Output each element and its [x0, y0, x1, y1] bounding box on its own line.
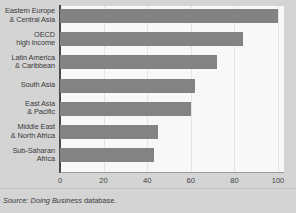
category-label-line: South Asia	[0, 81, 55, 89]
bar	[60, 79, 195, 93]
x-tick-label: 20	[91, 176, 117, 185]
bar	[60, 55, 217, 69]
source-note: Source: Doing Business database.	[3, 196, 116, 205]
bar	[60, 102, 191, 116]
bar-row	[60, 148, 278, 162]
category-label-line: & Central Asia	[0, 16, 55, 24]
category-label-line: & Pacific	[0, 108, 55, 116]
source-suffix: database.	[84, 196, 116, 205]
x-tick-label: 80	[221, 176, 247, 185]
bar	[60, 125, 158, 139]
source-prefix: Source:	[3, 196, 28, 205]
category-label: East Asia& Pacific	[0, 100, 55, 116]
source-publication: Doing Business	[31, 196, 82, 205]
footer-divider	[0, 188, 296, 189]
category-label: South Asia	[0, 81, 55, 89]
category-label-line: & Caribbean	[0, 62, 55, 70]
bar	[60, 9, 278, 23]
bar-row	[60, 102, 278, 116]
category-label-line: high income	[0, 39, 55, 47]
x-tick-label: 60	[178, 176, 204, 185]
bar-row	[60, 32, 278, 46]
bar-row	[60, 79, 278, 93]
x-axis-line	[60, 172, 284, 173]
x-tick-label: 100	[265, 176, 291, 185]
category-label: Sub-SaharanAfrica	[0, 147, 55, 163]
x-tick-label: 0	[47, 176, 73, 185]
bar	[60, 148, 154, 162]
bar-row	[60, 55, 278, 69]
category-label: OECDhigh income	[0, 31, 55, 47]
category-label: Middle East& North Africa	[0, 123, 55, 139]
gridline	[278, 6, 279, 172]
bar-chart-figure: Eastern Europe& Central AsiaOECDhigh inc…	[0, 0, 296, 213]
category-label-line: Africa	[0, 155, 55, 163]
category-label: Eastern Europe& Central Asia	[0, 7, 55, 23]
bar-row	[60, 125, 278, 139]
bar-row	[60, 9, 278, 23]
category-label-line: & North Africa	[0, 132, 55, 140]
bar	[60, 32, 243, 46]
x-tick-label: 40	[134, 176, 160, 185]
category-label: Latin America& Caribbean	[0, 54, 55, 70]
